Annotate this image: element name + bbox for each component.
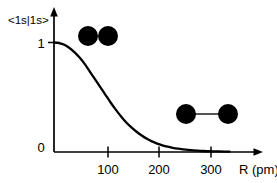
x-tick-label-300: 300 xyxy=(200,162,222,177)
overlap-integral-figure: <1s|1s> 1 0 100 200 300 R (pm) xyxy=(0,0,277,183)
y-tick-label-0: 0 xyxy=(37,140,44,155)
x-axis-arrowhead xyxy=(254,148,264,156)
atom-circle xyxy=(78,26,98,46)
y-axis xyxy=(50,7,58,152)
x-tick-label-200: 200 xyxy=(148,162,170,177)
x-axis-title: R (pm) xyxy=(239,162,277,177)
atom-circle xyxy=(98,26,118,46)
chart-canvas: <1s|1s> 1 0 100 200 300 R (pm) xyxy=(0,0,277,183)
overlap-integral-curve xyxy=(54,43,230,152)
x-tick-label-100: 100 xyxy=(97,162,119,177)
atom-circle xyxy=(176,104,196,124)
y-tick-label-1: 1 xyxy=(37,36,44,51)
y-axis-arrowhead xyxy=(50,7,58,17)
atom-circle xyxy=(218,104,238,124)
y-axis-title: <1s|1s> xyxy=(8,14,49,26)
separated-atoms-diagram xyxy=(176,104,238,124)
overlapping-atoms-diagram xyxy=(78,26,118,46)
